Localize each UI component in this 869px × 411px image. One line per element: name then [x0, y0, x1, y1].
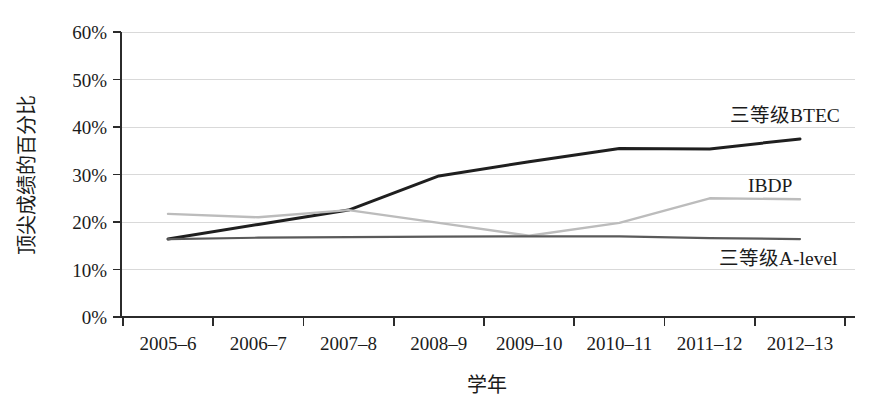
x-axis-tick-label: 2012–13	[767, 333, 834, 354]
data-series	[168, 139, 800, 239]
gridlines	[121, 32, 855, 270]
y-axis-tick-label: 60%	[72, 22, 107, 43]
x-axis-tick-label: 2007–8	[320, 333, 377, 354]
series-label: 三等级A-level	[719, 248, 838, 269]
series-label: 三等级BTEC	[730, 105, 840, 126]
x-axis-tick-label: 2011–12	[677, 333, 743, 354]
series-line	[168, 139, 800, 239]
y-axis-tick-label: 0%	[82, 307, 108, 328]
x-axis-tick-labels: 2005–62006–72007–82008–92009–102010–1120…	[140, 333, 834, 354]
x-axis-tick-label: 2006–7	[230, 333, 287, 354]
y-axis-title: 顶尖成绩的百分比	[16, 95, 38, 255]
series-labels: 三等级BTECIBDP三等级A-level	[719, 105, 840, 269]
series-line	[168, 236, 800, 239]
chart-container: 0%10%20%30%40%50%60% 2005–62006–72007–82…	[0, 0, 869, 411]
x-axis-tick-marks	[123, 317, 845, 326]
x-axis-tick-label: 2010–11	[587, 333, 653, 354]
x-axis-tick-label: 2008–9	[410, 333, 467, 354]
series-label: IBDP	[748, 175, 793, 196]
x-axis-tick-label: 2009–10	[496, 333, 563, 354]
line-chart: 0%10%20%30%40%50%60% 2005–62006–72007–82…	[0, 0, 869, 411]
y-axis-tick-label: 30%	[72, 165, 107, 186]
y-axis-tick-label: 10%	[72, 260, 107, 281]
series-line	[168, 198, 800, 236]
y-axis-tick-labels: 0%10%20%30%40%50%60%	[72, 22, 107, 328]
y-axis-tick-label: 40%	[72, 117, 107, 138]
x-axis-title: 学年	[467, 374, 507, 396]
y-axis-tick-label: 20%	[72, 212, 107, 233]
y-axis-tick-label: 50%	[72, 70, 107, 91]
x-axis-tick-label: 2005–6	[140, 333, 197, 354]
